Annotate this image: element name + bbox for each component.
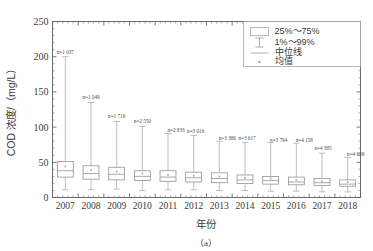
boxplot-item bbox=[134, 126, 150, 190]
sample-size-label: n=3 617 bbox=[238, 135, 256, 141]
box-iqr bbox=[237, 175, 253, 183]
x-tick-label: 2008 bbox=[82, 201, 101, 211]
mean-marker bbox=[116, 171, 118, 173]
chart-legend[interactable]: 25%～75%1%～99%中位线均值 bbox=[244, 22, 361, 67]
boxplot-item bbox=[340, 157, 356, 191]
x-tick-label: 2015 bbox=[261, 201, 280, 211]
sample-size-label: n=3 794 bbox=[270, 137, 288, 143]
x-tick-label: 2010 bbox=[133, 201, 152, 211]
legend-label-box[interactable]: 25%～75% bbox=[275, 26, 320, 36]
box-iqr bbox=[211, 173, 227, 183]
sample-size-label: n=1 049 bbox=[82, 94, 100, 100]
boxplot-item bbox=[186, 136, 202, 190]
y-tick-label: 250 bbox=[34, 16, 49, 27]
box-iqr bbox=[134, 171, 150, 181]
boxplot-item bbox=[314, 153, 330, 192]
sample-size-label: n=3 386 bbox=[219, 135, 237, 141]
boxplot-item bbox=[160, 133, 176, 189]
box-iqr bbox=[160, 171, 176, 182]
mean-marker bbox=[347, 181, 349, 183]
mean-marker bbox=[244, 177, 246, 179]
figure-container: 050100150200250 200720082009201020112012… bbox=[0, 0, 373, 251]
x-tick-label: 2018 bbox=[338, 201, 357, 211]
x-tick-label: 2013 bbox=[210, 201, 229, 211]
mean-marker bbox=[270, 178, 272, 180]
boxplot-item bbox=[57, 57, 73, 190]
box-iqr bbox=[288, 177, 304, 185]
boxplot-item bbox=[83, 102, 99, 189]
sample-size-label: n=3 016 bbox=[187, 128, 205, 134]
mean-marker bbox=[167, 174, 169, 176]
y-tick-label: 100 bbox=[34, 122, 49, 133]
mean-marker bbox=[321, 180, 323, 182]
y-tick-label: 200 bbox=[34, 51, 49, 62]
boxplot-item bbox=[211, 141, 227, 190]
mean-marker bbox=[64, 166, 66, 168]
sample-size-label: n=1 716 bbox=[108, 113, 126, 119]
sample-size-label: n=4 698 bbox=[347, 151, 365, 157]
boxplot-item bbox=[263, 143, 279, 192]
mean-marker bbox=[193, 175, 195, 177]
sample-size-label: n=2 833 bbox=[167, 127, 185, 133]
box-iqr bbox=[83, 166, 99, 179]
y-tick-label: 0 bbox=[44, 192, 49, 203]
box-series bbox=[57, 57, 355, 192]
boxplot-item bbox=[237, 143, 253, 191]
sample-size-label: n=4 158 bbox=[296, 137, 314, 143]
x-tick-label: 2011 bbox=[159, 201, 178, 211]
x-tick-label: 2009 bbox=[107, 201, 126, 211]
x-tick-label: 2007 bbox=[56, 201, 75, 211]
box-iqr bbox=[186, 172, 202, 182]
box-iqr bbox=[340, 180, 356, 186]
y-tick-label: 50 bbox=[39, 157, 49, 168]
legend-label-whisker[interactable]: 1%～99% bbox=[275, 37, 315, 47]
box-iqr bbox=[109, 167, 125, 180]
sample-size-label: n=1 037 bbox=[57, 49, 75, 55]
mean-marker bbox=[218, 175, 220, 177]
figure-caption: （a） bbox=[195, 238, 217, 248]
boxplot-chart: 050100150200250 200720082009201020112012… bbox=[0, 0, 373, 251]
x-tick-label: 2012 bbox=[184, 201, 203, 211]
sample-size-label: n=4 385 bbox=[314, 145, 332, 151]
legend-symbol-box bbox=[251, 27, 269, 35]
y-tick-label: 150 bbox=[34, 86, 49, 97]
x-tick-label: 2016 bbox=[287, 201, 306, 211]
x-axis-title: 年份 bbox=[196, 218, 217, 230]
legend-label-mean[interactable]: 均值 bbox=[275, 55, 293, 66]
x-tick-label: 2014 bbox=[236, 201, 255, 211]
box-iqr bbox=[57, 162, 73, 177]
boxplot-item bbox=[109, 121, 125, 189]
mean-marker bbox=[141, 173, 143, 175]
mean-marker bbox=[90, 169, 92, 171]
y-axis-title: COD 浓度/（mg/L） bbox=[5, 64, 17, 157]
boxplot-item bbox=[288, 143, 304, 191]
mean-marker bbox=[295, 179, 297, 181]
legend-symbol-mean bbox=[258, 61, 260, 63]
x-tick-label: 2017 bbox=[313, 201, 332, 211]
sample-size-label: n=2 550 bbox=[134, 118, 152, 124]
